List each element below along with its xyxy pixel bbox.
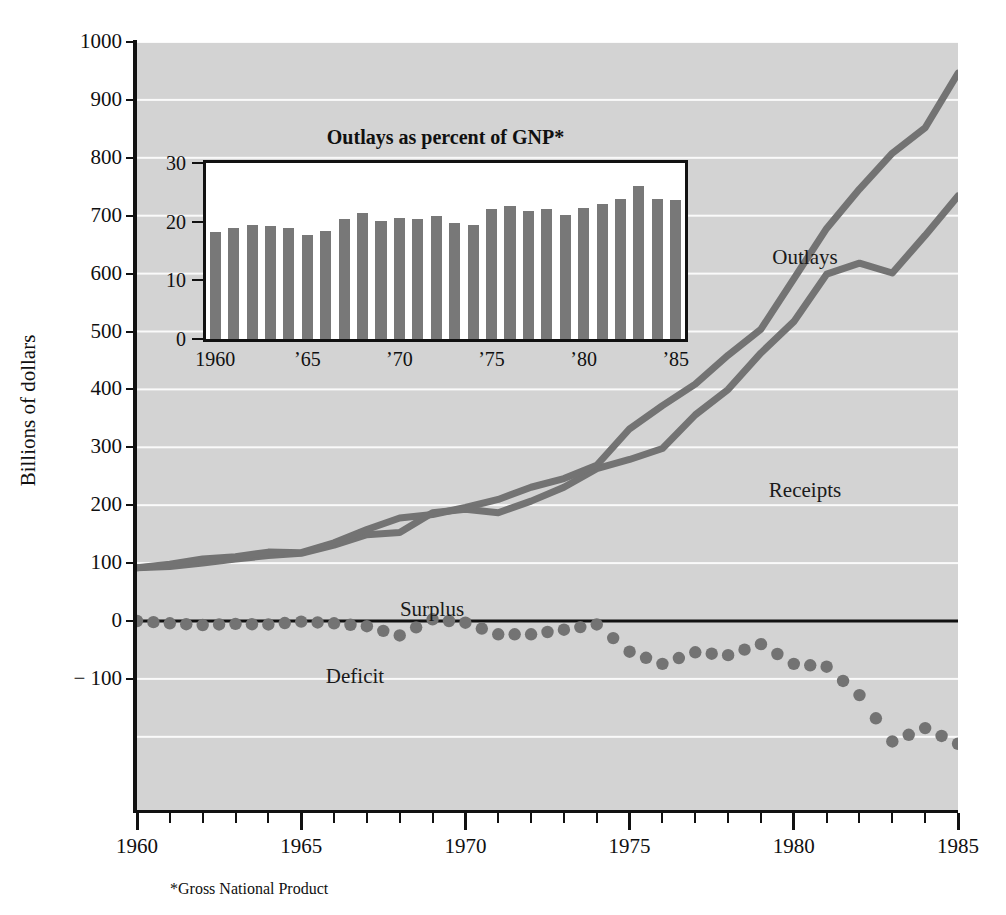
inset-bar (468, 225, 479, 339)
y-tick-mark (126, 331, 137, 333)
inset-bar (652, 199, 663, 339)
outlays-annotation: Outlays (772, 245, 837, 270)
inset-bar (541, 209, 552, 339)
inset-x-tick-label: 1960 (195, 348, 235, 370)
y-tick-label: 0 (40, 610, 122, 631)
inset-bar (210, 232, 221, 339)
inset-x-tick-label: ’85 (662, 348, 689, 370)
inset-bar (578, 208, 589, 339)
inset-plot-area (203, 160, 688, 342)
inset-bar (302, 235, 313, 339)
x-tick-label: 1965 (280, 835, 322, 857)
y-tick-mark (126, 157, 137, 159)
x-tick-minor (169, 813, 171, 823)
inset-y-tick-mark (192, 221, 204, 223)
footnote: *Gross National Product (170, 880, 328, 898)
inset-y-tick-mark (192, 338, 204, 340)
inset-bar (339, 219, 350, 339)
inset-bar (633, 186, 644, 339)
inset-x-tick-label: ’75 (478, 348, 505, 370)
inset-bar (431, 216, 442, 339)
deficit-annotation: Deficit (326, 664, 384, 689)
inset-x-tick-label: ’70 (386, 348, 413, 370)
y-tick-label: − 100 (40, 668, 122, 689)
y-tick-label: 500 (40, 321, 122, 342)
inset-bar (247, 225, 258, 339)
x-tick-label: 1980 (773, 835, 815, 857)
y-tick-mark (126, 273, 137, 275)
inset-bar (670, 200, 681, 339)
y-tick-mark (126, 215, 137, 217)
y-tick-label: 600 (40, 263, 122, 284)
x-tick-major (136, 813, 139, 830)
x-tick-minor (366, 813, 368, 823)
receipts-annotation: Receipts (769, 478, 841, 503)
x-axis-line (133, 810, 958, 813)
inset-bar (504, 206, 515, 339)
x-tick-minor (530, 813, 532, 823)
inset-bar (412, 219, 423, 339)
inset-bar (449, 223, 460, 339)
y-tick-label: 100 (40, 552, 122, 573)
inset-y-tick-mark (192, 279, 204, 281)
inset-y-tick-label: 30 (150, 153, 186, 173)
x-tick-minor (891, 813, 893, 823)
x-tick-minor (432, 813, 434, 823)
y-tick-mark (126, 620, 137, 622)
inset-y-tick-label: 20 (150, 212, 186, 232)
x-tick-label: 1975 (609, 835, 651, 857)
x-tick-minor (563, 813, 565, 823)
x-tick-minor (235, 813, 237, 823)
y-tick-label: 400 (40, 378, 122, 399)
y-tick-label: 200 (40, 494, 122, 515)
inset-x-tick-label: ’80 (570, 348, 597, 370)
x-tick-minor (202, 813, 204, 823)
inset-bar (523, 211, 534, 339)
chart-figure: 10009008007006005004003002001000− 100 19… (0, 0, 1006, 915)
inset-bar (394, 218, 405, 339)
x-tick-major (957, 813, 960, 830)
inset-y-tick-mark (192, 162, 204, 164)
inset-bar (375, 221, 386, 340)
y-tick-label: 900 (40, 89, 122, 110)
y-axis-line (133, 40, 137, 812)
y-tick-mark (126, 446, 137, 448)
x-tick-minor (333, 813, 335, 823)
inset-bar (265, 226, 276, 339)
x-tick-minor (760, 813, 762, 823)
x-tick-label: 1960 (116, 835, 158, 857)
x-tick-minor (267, 813, 269, 823)
x-tick-minor (497, 813, 499, 823)
x-tick-major (792, 813, 795, 830)
x-tick-minor (858, 813, 860, 823)
x-tick-major (300, 813, 303, 830)
inset-bar (320, 231, 331, 339)
inset-bar (357, 213, 368, 339)
x-tick-minor (661, 813, 663, 823)
inset-title: Outlays as percent of GNP* (203, 126, 688, 149)
x-tick-minor (727, 813, 729, 823)
inset-bar (283, 228, 294, 339)
inset-bar (597, 204, 608, 339)
y-axis-title: Billions of dollars (16, 271, 41, 551)
y-tick-mark (126, 41, 137, 43)
x-tick-label: 1985 (937, 835, 979, 857)
y-tick-label: 700 (40, 205, 122, 226)
inset-bar (615, 199, 626, 339)
y-tick-mark (126, 562, 137, 564)
cropped-headline (137, 0, 967, 3)
x-tick-minor (924, 813, 926, 823)
surplus-annotation: Surplus (400, 597, 464, 622)
y-tick-mark (126, 504, 137, 506)
y-tick-mark (126, 99, 137, 101)
x-tick-minor (826, 813, 828, 823)
inset-bars-layer (206, 163, 685, 339)
main-chart-svg (137, 42, 958, 810)
x-tick-minor (694, 813, 696, 823)
y-tick-mark (126, 678, 137, 680)
inset-y-tick-label: 0 (150, 329, 186, 349)
inset-bar (228, 228, 239, 339)
y-tick-mark (126, 388, 137, 390)
x-tick-minor (399, 813, 401, 823)
x-tick-minor (596, 813, 598, 823)
